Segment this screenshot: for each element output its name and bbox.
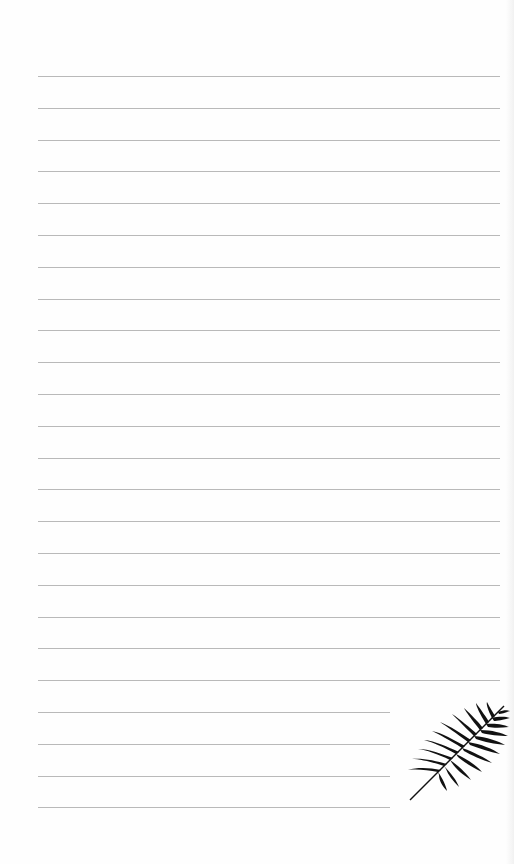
ruled-line	[38, 299, 500, 300]
ruled-line	[38, 680, 500, 681]
ruled-line	[38, 362, 500, 363]
ruled-line	[38, 267, 500, 268]
ruled-line	[38, 744, 390, 745]
ruled-line	[38, 712, 390, 713]
palm-leaf-icon	[404, 700, 512, 804]
ruled-line	[38, 617, 500, 618]
ruled-line	[38, 458, 500, 459]
ruled-line	[38, 776, 390, 777]
ruled-line	[38, 553, 500, 554]
ruled-line	[38, 648, 500, 649]
ruled-line	[38, 108, 500, 109]
ruled-line	[38, 203, 500, 204]
ruled-line	[38, 394, 500, 395]
lined-paper-page	[0, 0, 514, 864]
ruled-line	[38, 521, 500, 522]
ruled-line	[38, 585, 500, 586]
ruled-line	[38, 489, 500, 490]
ruled-line	[38, 330, 500, 331]
ruled-line	[38, 235, 500, 236]
ruled-line	[38, 76, 500, 77]
ruled-line	[38, 807, 390, 808]
ruled-line	[38, 426, 500, 427]
ruled-line	[38, 171, 500, 172]
ruled-line	[38, 140, 500, 141]
